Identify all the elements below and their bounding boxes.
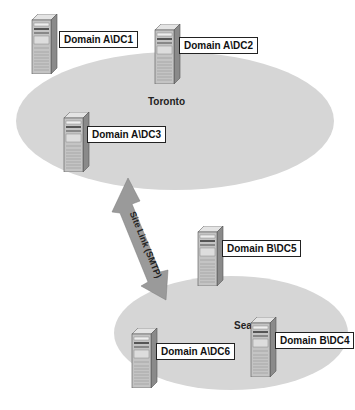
server-icon	[130, 328, 158, 392]
domain-controller-label-dc4: Domain B\DC4	[275, 332, 354, 349]
domain-controller-label-dc5: Domain B\DC5	[222, 240, 301, 257]
domain-controller-label-dc1: Domain A\DC1	[59, 31, 138, 48]
server-icon	[30, 14, 58, 78]
server-icon	[249, 317, 277, 381]
domain-controller-label-dc3: Domain A\DC3	[87, 126, 166, 143]
domain-controller-label-dc2: Domain A\DC2	[179, 37, 258, 54]
server-icon	[153, 24, 181, 88]
server-icon	[62, 112, 90, 176]
server-icon	[196, 226, 224, 290]
domain-controller-label-dc6: Domain A\DC6	[156, 343, 235, 360]
